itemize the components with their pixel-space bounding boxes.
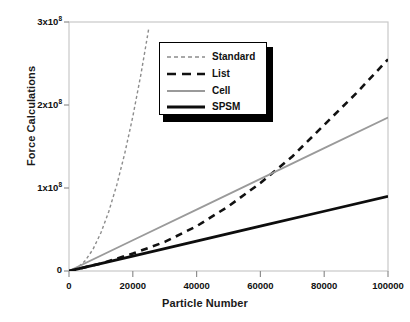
chart-legend: StandardListCellSPSM: [159, 42, 267, 115]
x-tick-label: 0: [66, 280, 71, 291]
y-tick-label: 2x108: [14, 98, 62, 110]
legend-swatch-cell-icon: [166, 85, 206, 97]
x-tick-label: 20000: [120, 280, 146, 291]
legend-item-cell[interactable]: Cell: [166, 83, 230, 99]
x-tick-label: 60000: [247, 280, 273, 291]
y-tick-label: 0: [14, 264, 62, 275]
legend-swatch-list-icon: [166, 68, 206, 80]
x-tick-label: 40000: [183, 280, 209, 291]
x-tick-label: 100000: [372, 280, 404, 291]
legend-label: SPSM: [212, 101, 240, 113]
legend-label: List: [212, 68, 230, 80]
legend-item-spsm[interactable]: SPSM: [166, 99, 240, 115]
y-axis-title: Force Calculations: [25, 36, 37, 196]
legend-swatch-spsm-icon: [166, 101, 206, 113]
series-line-standard: [69, 29, 149, 271]
y-tick-label: 3x108: [14, 15, 62, 27]
legend-item-list[interactable]: List: [166, 66, 230, 82]
legend-swatch-standard-icon: [166, 51, 206, 63]
series-line-cell: [69, 117, 388, 271]
chart-figure: 01x1082x1083x108 02000040000600008000010…: [0, 0, 410, 322]
legend-item-standard[interactable]: Standard: [166, 49, 255, 65]
y-tick-label: 1x108: [14, 181, 62, 193]
legend-label: Standard: [212, 51, 255, 63]
legend-label: Cell: [212, 85, 230, 97]
x-tick-label: 80000: [311, 280, 337, 291]
series-line-spsm: [69, 196, 388, 271]
x-axis-title: Particle Number: [0, 297, 410, 309]
